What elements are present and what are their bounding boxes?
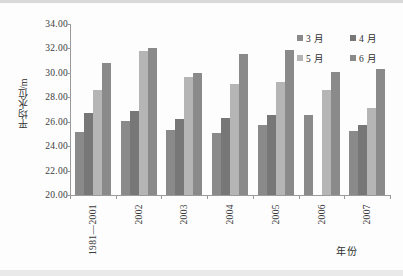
bar xyxy=(276,82,285,195)
y-axis-tick-label: 30.00 xyxy=(45,68,68,78)
bar xyxy=(230,84,239,195)
x-axis-tick-label: 2006 xyxy=(317,204,327,225)
bar xyxy=(193,73,202,195)
legend-entry[interactable]: 4 月 xyxy=(350,31,393,45)
x-axis-tick-mark xyxy=(116,195,117,199)
bar xyxy=(148,48,157,195)
bar xyxy=(139,51,148,195)
bar xyxy=(267,115,276,195)
y-axis-tick-mark xyxy=(66,73,70,74)
bar xyxy=(93,90,102,195)
bar-group xyxy=(75,24,111,195)
y-axis-tick-label: 26.00 xyxy=(45,117,68,127)
legend-entry[interactable]: 3 月 xyxy=(297,31,340,45)
legend-swatch-icon xyxy=(297,35,303,41)
y-axis-line xyxy=(70,24,71,195)
bar xyxy=(322,90,331,195)
bar xyxy=(367,108,376,195)
bar xyxy=(331,72,340,195)
y-axis-tick-mark xyxy=(66,24,70,25)
bar xyxy=(376,69,385,195)
y-axis-tick-mark xyxy=(66,122,70,123)
y-axis-tick-label: 34.00 xyxy=(45,19,68,29)
y-axis-tick-label: 22.00 xyxy=(45,166,68,176)
scan-artifact-bottom xyxy=(0,270,403,276)
legend-swatch-icon xyxy=(297,55,303,61)
bar xyxy=(304,115,313,195)
bar-group xyxy=(258,24,294,195)
x-axis-tick-mark xyxy=(207,195,208,199)
legend-label: 3 月 xyxy=(306,31,325,45)
bar xyxy=(221,118,230,195)
bar xyxy=(75,132,84,196)
x-axis-tick-mark xyxy=(70,195,71,199)
bar xyxy=(121,121,130,195)
y-axis-tick-mark xyxy=(66,171,70,172)
y-axis-tick-label: 32.00 xyxy=(45,43,68,53)
bar xyxy=(212,133,221,195)
x-axis-tick-mark xyxy=(344,195,345,199)
x-axis-tick-mark xyxy=(253,195,254,199)
bar-group xyxy=(166,24,202,195)
y-axis-tick-label: 24.00 xyxy=(45,141,68,151)
x-axis-tick-label: 2003 xyxy=(179,204,189,225)
chart-legend: 3 月4 月5 月6 月 xyxy=(297,31,393,65)
bar xyxy=(349,131,358,195)
legend-label: 6 月 xyxy=(359,51,378,65)
x-axis-tick-mark xyxy=(161,195,162,199)
legend-label: 4 月 xyxy=(359,31,378,45)
x-axis-tick-mark xyxy=(390,195,391,199)
x-axis-tick-label: 1981—2001 xyxy=(88,204,98,255)
y-axis-tick-labels: 34.0032.0030.0028.0026.0024.0022.0020.00 xyxy=(32,18,68,200)
x-axis-line xyxy=(70,195,390,196)
x-axis-tick-mark xyxy=(299,195,300,199)
bar-group xyxy=(121,24,157,195)
x-axis-tick-label: 2007 xyxy=(362,204,372,225)
y-axis-tick-mark xyxy=(66,146,70,147)
bar-chart: 平均水位/m 34.0032.0030.0028.0026.0024.0022.… xyxy=(0,0,403,276)
scan-artifact-top xyxy=(0,0,403,3)
y-axis-tick-mark xyxy=(66,97,70,98)
legend-swatch-icon xyxy=(350,35,356,41)
y-axis-tick-mark xyxy=(66,48,70,49)
bar xyxy=(358,125,367,195)
x-axis-tick-label: 2004 xyxy=(225,204,235,225)
y-axis-title: 平均水位/m xyxy=(16,44,32,164)
bar xyxy=(258,125,267,195)
legend-entry[interactable]: 5 月 xyxy=(297,51,340,65)
bar xyxy=(166,130,175,195)
legend-label: 5 月 xyxy=(306,51,325,65)
bar xyxy=(175,119,184,195)
bar xyxy=(84,113,93,195)
x-axis-tick-label: 2002 xyxy=(134,204,144,225)
y-axis-tick-label: 20.00 xyxy=(45,190,68,200)
bar xyxy=(239,54,248,195)
x-axis-tick-label: 2005 xyxy=(271,204,281,225)
bar-group xyxy=(212,24,248,195)
bar xyxy=(184,77,193,195)
legend-swatch-icon xyxy=(350,55,356,61)
y-axis-tick-label: 28.00 xyxy=(45,92,68,102)
bar xyxy=(102,63,111,195)
bar xyxy=(130,111,139,195)
legend-entry[interactable]: 6 月 xyxy=(350,51,393,65)
x-axis-title: 年份 xyxy=(336,243,358,258)
bar xyxy=(285,50,294,195)
